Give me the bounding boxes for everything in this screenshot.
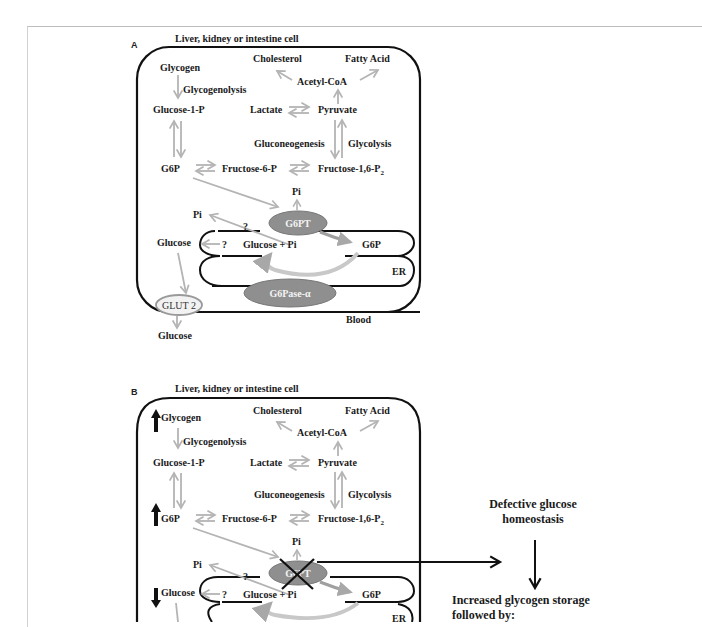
g6p-transport-arrow — [320, 582, 350, 592]
glucose-to-glut2-arrow — [176, 603, 178, 622]
glucose-cyto-label: Glucose — [161, 587, 195, 598]
acetyl-cholesterol-arrow — [277, 422, 292, 431]
fatty-acid-label: Fatty Acid — [345, 405, 390, 416]
panel-b: B Liver, kidney or intestine cell Glycog… — [131, 383, 590, 622]
glucose-1-p-label: Glucose-1-P — [153, 457, 205, 468]
g6p-er-label: G6P — [362, 239, 381, 250]
g6p-increase-icon — [151, 503, 161, 526]
glucose-cyto-label: Glucose — [157, 237, 191, 248]
g6p-label: G6P — [161, 513, 180, 524]
er-membrane — [200, 231, 414, 286]
hydrolysis-arrow — [267, 253, 358, 275]
acetyl-coa-label: Acetyl-CoA — [297, 427, 348, 438]
acetyl-coa-label: Acetyl-CoA — [297, 76, 348, 87]
glucose-decrease-icon — [151, 588, 161, 608]
panel-a: A Liver, kidney or intestine cell Glycog… — [131, 33, 420, 341]
blood-label: Blood — [346, 314, 371, 325]
glycolysis-label: Glycolysis — [348, 138, 391, 149]
acetyl-fatty-acid-arrow — [360, 421, 378, 431]
glycogen-increase-icon — [151, 409, 161, 432]
increased-glycogen-line1: Increased glycogen storage — [452, 593, 590, 607]
g6p-label: G6P — [161, 163, 180, 174]
er-label: ER — [392, 613, 407, 622]
glycolysis-label: Glycolysis — [348, 489, 391, 500]
pi-left-label: Pi — [193, 559, 202, 570]
glycogen-label: Glycogen — [161, 412, 201, 423]
glucose-pi-label: Glucose + Pi — [243, 239, 297, 250]
panel-letter: A — [131, 40, 138, 50]
gluconeogenesis-label: Gluconeogenesis — [254, 489, 325, 500]
glucose-blood-label: Glucose — [158, 330, 192, 341]
increased-glycogen-line2: followed by: — [452, 608, 515, 622]
question-mark-2: ? — [222, 239, 227, 250]
gluconeogenesis-label: Gluconeogenesis — [254, 138, 325, 149]
g6pt-label: G6PT — [285, 218, 311, 229]
defective-homeostasis-line1: Defective glucose — [489, 497, 577, 511]
g6p-to-g6pt-arrow — [193, 528, 278, 557]
pi-top-label: Pi — [292, 536, 301, 547]
fructose-6-p-label: Fructose-6-P — [222, 163, 277, 174]
glucose-pi-label: Glucose + Pi — [243, 589, 297, 600]
glycogenolysis-label: Glycogenolysis — [183, 436, 246, 447]
er-label: ER — [392, 266, 407, 277]
pi-left-label: Pi — [193, 209, 202, 220]
cholesterol-label: Cholesterol — [253, 405, 302, 416]
defective-homeostasis-line2: homeostasis — [502, 512, 564, 526]
glut2-label: GLUT 2 — [162, 300, 196, 311]
glycogen-label: Glycogen — [160, 62, 200, 73]
g6pase-label: G6Pase-α — [269, 288, 311, 299]
fructose-1-6-p2-label: Fructose-1,6-P2 — [318, 163, 384, 177]
lactate-label: Lactate — [250, 104, 283, 115]
cell-title: Liver, kidney or intestine cell — [175, 383, 299, 394]
acetyl-cholesterol-arrow — [277, 71, 292, 80]
pyruvate-label: Pyruvate — [318, 104, 357, 115]
question-mark-2: ? — [222, 589, 227, 600]
fructose-6-p-label: Fructose-6-P — [222, 513, 277, 524]
pi-top-label: Pi — [292, 186, 301, 197]
fructose-1-6-p2-label: Fructose-1,6-P2 — [318, 513, 384, 527]
fatty-acid-label: Fatty Acid — [345, 53, 390, 64]
cell-title: Liver, kidney or intestine cell — [175, 33, 299, 44]
hydrolysis-arrow — [267, 603, 358, 618]
g6p-to-g6pt-arrow — [193, 178, 278, 207]
pyruvate-label: Pyruvate — [318, 457, 357, 468]
cholesterol-label: Cholesterol — [253, 53, 302, 64]
question-mark-1: ? — [243, 571, 248, 582]
panel-letter: B — [131, 387, 138, 397]
glucose-to-glut2-arrow — [178, 253, 186, 293]
g6p-transport-arrow — [320, 232, 350, 242]
acetyl-fatty-acid-arrow — [360, 70, 378, 80]
lactate-label: Lactate — [250, 457, 283, 468]
g6p-er-label: G6P — [362, 589, 381, 600]
glycogenolysis-label: Glycogenolysis — [183, 84, 246, 95]
glucose-1-p-label: Glucose-1-P — [153, 104, 205, 115]
question-mark-1: ? — [243, 221, 248, 232]
